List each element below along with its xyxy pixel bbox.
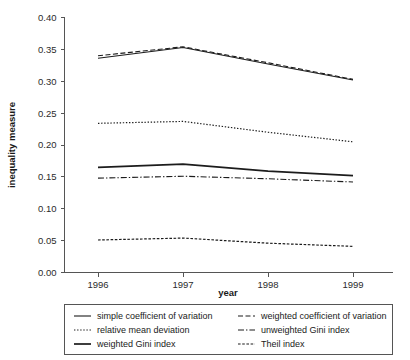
legend-label: weighted Gini index: [96, 339, 176, 349]
x-axis-title: year: [218, 287, 238, 298]
series-line: [98, 47, 353, 80]
x-tick-label: 1999: [342, 279, 363, 290]
x-tick-label: 1997: [172, 279, 193, 290]
y-tick-label: 0.00: [38, 267, 57, 278]
y-tick-label: 0.35: [38, 44, 57, 55]
legend-label: simple coefficient of variation: [97, 311, 212, 321]
chart-figure: 0.000.050.100.150.200.250.300.350.40 199…: [0, 0, 410, 360]
legend-label: unweighted Gini index: [261, 325, 350, 335]
y-tick-label: 0.20: [38, 139, 57, 150]
y-tick-label: 0.40: [38, 12, 57, 23]
series-line: [98, 176, 353, 182]
y-tick-label: 0.25: [38, 108, 57, 119]
series-lines: [98, 47, 353, 247]
y-tick-label: 0.10: [38, 203, 57, 214]
legend-label: weighted coefficient of variation: [260, 311, 386, 321]
y-axis-ticks: 0.000.050.100.150.200.250.300.350.40: [38, 12, 65, 278]
series-line: [98, 238, 353, 246]
y-tick-label: 0.05: [38, 235, 57, 246]
chart-svg: 0.000.050.100.150.200.250.300.350.40 199…: [0, 0, 410, 360]
y-axis-title: inequality measure: [6, 102, 17, 188]
x-tick-label: 1996: [87, 279, 108, 290]
series-line: [98, 164, 353, 175]
series-line: [98, 47, 353, 80]
legend-label: Theil index: [261, 339, 305, 349]
series-line: [98, 121, 353, 141]
x-tick-label: 1998: [257, 279, 278, 290]
y-tick-label: 0.15: [38, 171, 57, 182]
legend-label: relative mean deviation: [97, 325, 190, 335]
y-tick-label: 0.30: [38, 76, 57, 87]
